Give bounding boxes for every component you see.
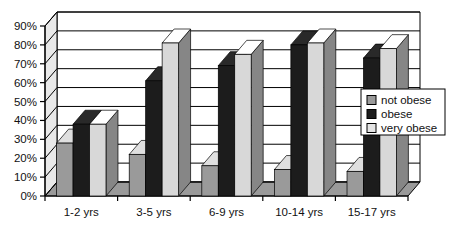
legend-swatch-icon	[367, 96, 376, 105]
x-axis-category-label: 3-5 yrs	[136, 206, 171, 218]
bar-front-face	[129, 154, 145, 196]
bar-front-face	[218, 66, 234, 196]
bar-front-face	[146, 81, 162, 196]
y-axis-tick-label: 0%	[20, 190, 37, 202]
bar-front-face	[274, 170, 290, 196]
bar	[307, 29, 335, 196]
bar-front-face	[57, 143, 73, 196]
bar-front-face	[73, 124, 89, 196]
chart-container: 0%10%20%30%40%50%60%70%80%90%1-2 yrs3-5 …	[0, 0, 452, 242]
y-axis-tick-label: 20%	[14, 152, 37, 164]
bar	[162, 29, 190, 196]
x-axis: 1-2 yrs3-5 yrs6-9 yrs10-14 yrs15-17 yrs	[45, 196, 408, 218]
y-axis-tick-label: 30%	[14, 133, 37, 145]
x-axis-category-label: 10-14 yrs	[275, 206, 323, 218]
x-axis-category-label: 6-9 yrs	[209, 206, 244, 218]
bar	[235, 40, 263, 196]
bar	[90, 110, 118, 196]
bar-front-face	[235, 54, 251, 196]
legend-item-label: obese	[381, 108, 412, 120]
x-axis-category-label: 15-17 yrs	[348, 206, 396, 218]
y-axis-tick-label: 80%	[14, 39, 37, 51]
y-axis-tick-label: 60%	[14, 77, 37, 89]
y-axis-tick-label: 40%	[14, 114, 37, 126]
bar-front-face	[291, 45, 307, 196]
bar-side-face	[251, 40, 263, 196]
bar-side-face	[324, 29, 336, 196]
chart-left-wall	[45, 12, 57, 196]
bar-side-face	[106, 110, 118, 196]
legend-item-label: very obese	[381, 122, 437, 134]
legend: not obeseobesevery obese	[361, 89, 445, 135]
y-axis-tick-label: 10%	[14, 171, 37, 183]
legend-item: obese	[367, 108, 412, 120]
legend-swatch-icon	[367, 124, 376, 133]
bar-front-face	[90, 124, 106, 196]
y-axis-tick-label: 70%	[14, 58, 37, 70]
bar-front-face	[347, 171, 363, 196]
legend-item-label: not obese	[381, 94, 432, 106]
y-axis-tick-label: 90%	[14, 20, 37, 32]
bar-front-face	[162, 43, 178, 196]
y-axis: 0%10%20%30%40%50%60%70%80%90%	[14, 20, 45, 202]
bar-front-face	[202, 166, 218, 196]
legend-swatch-icon	[367, 110, 376, 119]
y-axis-tick-label: 50%	[14, 96, 37, 108]
x-axis-category-label: 1-2 yrs	[64, 206, 99, 218]
bar-side-face	[179, 29, 191, 196]
column-chart-3d: 0%10%20%30%40%50%60%70%80%90%1-2 yrs3-5 …	[0, 0, 452, 242]
bar-front-face	[307, 43, 323, 196]
